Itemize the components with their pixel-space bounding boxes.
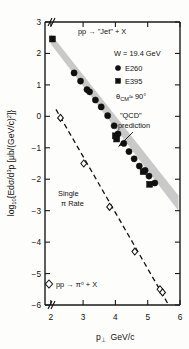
data-point-circle (92, 97, 98, 103)
jet-cross-section-chart: 23456 3210−1−2−3−4−5−6 p⊥ GeV/c log10{Ed… (0, 0, 189, 349)
data-point-square (140, 169, 146, 175)
y-tick-label: 3 (36, 17, 41, 27)
data-point-circle (98, 104, 104, 110)
reaction-label: pp → "Jet" + X (78, 27, 126, 36)
legend-e260-label: E260 (125, 64, 142, 73)
y-tick-label: 1 (36, 80, 41, 90)
data-point-circle (111, 123, 117, 129)
y-tick-label: −5 (32, 269, 42, 279)
figure-container: 23456 3210−1−2−3−4−5−6 p⊥ GeV/c log10{Ed… (0, 0, 189, 349)
x-tick-label: 6 (178, 312, 183, 322)
x-axis-unit: GeV/c (111, 332, 136, 342)
y-tick-label: −1 (32, 143, 42, 153)
data-point-circle (71, 70, 77, 76)
data-point-circle (126, 148, 132, 154)
data-point-square (114, 136, 120, 142)
data-point-circle (146, 173, 152, 179)
data-point-circle (105, 113, 111, 119)
single-pi-label-line1: Single (58, 189, 79, 198)
pion-legend-label: pp → π⁰ + X (56, 280, 97, 289)
y-tick-label: −4 (32, 237, 42, 247)
x-tick-label: 3 (81, 312, 86, 322)
data-point-circle (86, 89, 92, 95)
y-tick-label: −2 (32, 174, 42, 184)
x-tick-label: 4 (113, 312, 118, 322)
data-point-circle (77, 78, 83, 84)
y-tick-label: 2 (36, 48, 41, 58)
data-point-circle (136, 163, 142, 169)
data-point-circle (131, 156, 137, 162)
y-tick-label: −3 (32, 206, 42, 216)
data-point-square (147, 181, 153, 187)
x-tick-label: 2 (49, 312, 54, 322)
legend-square-icon (116, 78, 121, 83)
energy-label: W = 19.4 GeV (114, 49, 161, 58)
legend-e395-label: E395 (125, 77, 142, 86)
y-tick-label: −6 (32, 300, 42, 310)
data-point-square (49, 36, 55, 42)
y-tick-label: 0 (36, 111, 41, 121)
x-tick-label: 5 (145, 312, 150, 322)
legend-circle-icon (115, 65, 120, 70)
qcd-label-line1: "QCD" (120, 111, 142, 120)
angle-value: ≈ 90° (129, 92, 146, 101)
qcd-label-line2: prediction (118, 121, 150, 130)
single-pi-label-line2: π Rate (61, 199, 84, 208)
cm-subscript: CM (120, 96, 129, 102)
